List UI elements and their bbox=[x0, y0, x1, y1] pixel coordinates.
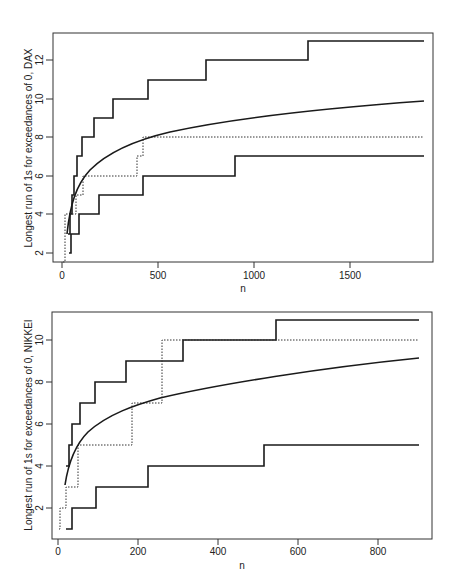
y-tick-label: 8 bbox=[34, 134, 45, 140]
x-tick-label: 400 bbox=[210, 546, 227, 557]
x-tick-label: 0 bbox=[55, 546, 61, 557]
plot-frame bbox=[52, 312, 432, 539]
y-tick-label: 2 bbox=[34, 505, 45, 511]
chart-dax: 2 4 6 8 10 12 0 500 1000 1500 n Longest … bbox=[23, 33, 433, 294]
y-tick-label: 10 bbox=[34, 93, 45, 105]
y-axis bbox=[46, 340, 52, 508]
y-axis bbox=[46, 60, 53, 253]
x-tick-label: 500 bbox=[150, 270, 167, 281]
x-tick-label: 1500 bbox=[339, 270, 362, 281]
x-axis-label: n bbox=[239, 560, 245, 571]
y-tick-label: 8 bbox=[34, 379, 45, 385]
x-axis bbox=[58, 539, 378, 545]
y-tick-label: 12 bbox=[34, 54, 45, 66]
y-tick-labels: 2 4 6 8 10 12 bbox=[34, 54, 45, 256]
figure: 2 4 6 8 10 12 0 500 1000 1500 n Longest … bbox=[0, 0, 456, 582]
x-axis-label: n bbox=[240, 283, 246, 294]
x-tick-label: 800 bbox=[370, 546, 387, 557]
y-tick-label: 6 bbox=[34, 421, 45, 427]
y-tick-label: 2 bbox=[34, 250, 45, 256]
x-tick-label: 200 bbox=[130, 546, 147, 557]
y-axis-label: Longest run of 1s for exceedances of 0, … bbox=[23, 48, 34, 247]
x-tick-label: 600 bbox=[290, 546, 307, 557]
y-tick-label: 4 bbox=[34, 211, 45, 217]
expected-curve bbox=[67, 101, 424, 234]
plot-frame bbox=[53, 33, 433, 262]
x-tick-label: 0 bbox=[59, 270, 65, 281]
x-tick-labels: 0 200 400 600 800 bbox=[55, 546, 387, 557]
observed-line bbox=[59, 340, 419, 529]
y-tick-label: 10 bbox=[34, 334, 45, 346]
y-tick-labels: 2 4 6 8 10 bbox=[34, 334, 45, 511]
y-tick-label: 6 bbox=[34, 173, 45, 179]
y-tick-label: 4 bbox=[34, 463, 45, 469]
chart-nikkei: 2 4 6 8 10 0 200 400 600 800 n Longest r… bbox=[23, 312, 432, 571]
upper-bound-line bbox=[66, 320, 419, 466]
y-axis-label: Longest run of 1s for exceedances of 0, … bbox=[23, 319, 34, 530]
lower-bound-line bbox=[66, 445, 419, 529]
x-axis bbox=[62, 262, 350, 268]
x-tick-labels: 0 500 1000 1500 bbox=[59, 270, 361, 281]
x-tick-label: 1000 bbox=[243, 270, 266, 281]
lower-bound-line bbox=[69, 156, 424, 253]
